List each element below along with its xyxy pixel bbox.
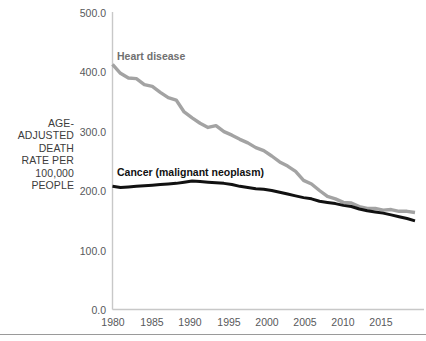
heart-disease-label: Heart disease [117, 50, 185, 62]
chart-container: AGE- ADJUSTED DEATH RATE PER 100,000 PEO… [0, 0, 426, 341]
cancer-line [113, 181, 416, 221]
bottom-divider [0, 334, 426, 335]
cancer-label: Cancer (malignant neoplasm) [117, 166, 264, 178]
